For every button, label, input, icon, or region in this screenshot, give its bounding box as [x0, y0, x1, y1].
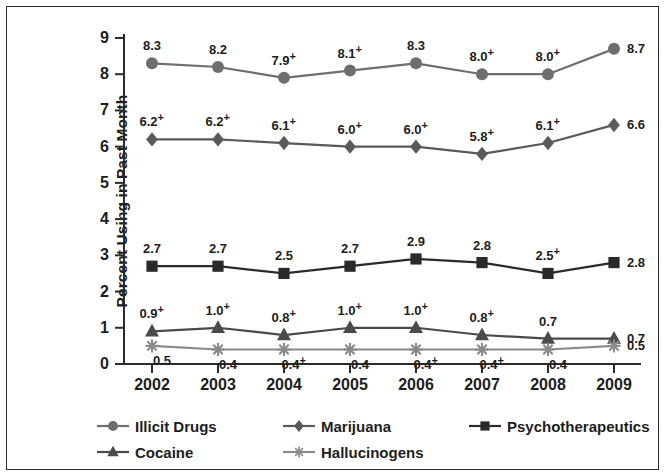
data-point-label: 6.2+	[206, 115, 231, 128]
asterisk-marker-icon	[475, 343, 488, 356]
data-point-label: 1.0+	[338, 304, 363, 317]
data-point-label: 0.8+	[470, 311, 495, 324]
diamond-marker-icon	[282, 416, 316, 436]
data-point-label: 8.3	[407, 39, 425, 52]
circle-marker-icon	[344, 65, 356, 77]
data-point-label: 1.0+	[206, 304, 231, 317]
data-point-label: 0.4+	[480, 358, 505, 371]
square-marker-icon	[476, 257, 487, 268]
data-point-label: 8.0+	[536, 50, 561, 63]
data-point-label: 2.8	[473, 239, 491, 252]
data-point-label: 0.7	[539, 315, 557, 328]
diamond-marker-icon	[410, 139, 422, 153]
legend-label: Hallucinogens	[321, 445, 424, 460]
data-point-label: 0.5	[153, 354, 171, 367]
square-marker-icon	[468, 416, 502, 436]
data-point-label: 8.3	[143, 39, 161, 52]
legend-item-hallucinogens[interactable]: Hallucinogens	[282, 440, 424, 464]
asterisk-marker-icon	[145, 339, 158, 352]
data-point-label: 0.4	[219, 358, 237, 371]
y-tick-label: 4	[83, 211, 109, 227]
circle-marker-icon	[96, 416, 130, 436]
data-point-label: 0.4+	[414, 358, 439, 371]
data-point-label: 6.1+	[536, 119, 561, 132]
circle-marker-icon	[410, 57, 422, 69]
asterisk-marker-icon	[294, 447, 305, 458]
diamond-marker-icon	[278, 136, 290, 150]
triangle-marker-icon	[211, 320, 225, 333]
y-tick-label: 1	[83, 320, 109, 336]
data-point-label: 1.0+	[404, 304, 429, 317]
data-point-label: 8.2	[209, 43, 227, 56]
data-point-label: 2.9	[407, 235, 425, 248]
square-marker-icon	[480, 421, 489, 430]
legend-item-marijuana[interactable]: Marijuana	[282, 414, 391, 438]
plot-area: Percent Using in Past Month 012345678920…	[104, 24, 649, 379]
legend-label: Psychotherapeutics	[507, 419, 650, 434]
circle-marker-icon	[608, 43, 620, 55]
y-tick-label: 5	[83, 175, 109, 191]
x-tick-label: 2002	[121, 377, 183, 393]
legend-item-illicit-drugs[interactable]: Illicit Drugs	[96, 414, 217, 438]
circle-marker-icon	[278, 72, 290, 84]
data-point-label: 2.7	[143, 242, 161, 255]
asterisk-marker-icon	[409, 343, 422, 356]
figure-container: Percent Using in Past Month 012345678920…	[0, 0, 665, 476]
y-tick-label: 6	[83, 139, 109, 155]
square-marker-icon	[278, 268, 289, 279]
legend-label: Cocaine	[135, 445, 193, 460]
data-point-label: 6.0+	[404, 123, 429, 136]
x-tick-label: 2003	[187, 377, 249, 393]
circle-marker-icon	[542, 68, 554, 80]
diamond-marker-icon	[344, 139, 356, 153]
asterisk-marker-icon	[211, 343, 224, 356]
square-marker-icon	[410, 253, 421, 264]
x-tick-label: 2004	[253, 377, 315, 393]
legend-label: Illicit Drugs	[135, 419, 217, 434]
circle-marker-icon	[476, 68, 488, 80]
triangle-marker-icon	[409, 320, 423, 333]
x-tick-label: 2009	[583, 377, 645, 393]
square-marker-icon	[344, 261, 355, 272]
data-point-label: 0.4+	[282, 358, 307, 371]
asterisk-marker-icon	[282, 442, 316, 462]
diamond-marker-icon	[212, 132, 224, 146]
data-point-label: 6.2+	[140, 115, 165, 128]
data-point-label: 0.8+	[272, 311, 297, 324]
data-point-label: 2.7	[209, 242, 227, 255]
diamond-marker-icon	[476, 147, 488, 161]
triangle-marker-icon	[96, 442, 130, 462]
x-tick-label: 2008	[517, 377, 579, 393]
data-point-label: 0.9+	[140, 307, 165, 320]
data-point-label: 7.9+	[272, 54, 297, 67]
x-tick-label: 2006	[385, 377, 447, 393]
data-point-label: 5.8+	[470, 130, 495, 143]
data-point-label: 8.7	[627, 42, 645, 55]
data-point-label: 0.5	[627, 339, 645, 352]
circle-marker-icon	[146, 57, 158, 69]
data-point-label: 6.6	[627, 118, 645, 131]
asterisk-marker-icon	[607, 339, 620, 352]
data-point-label: 2.5	[275, 249, 293, 262]
asterisk-marker-icon	[343, 343, 356, 356]
square-marker-icon	[542, 268, 553, 279]
legend-item-cocaine[interactable]: Cocaine	[96, 440, 193, 464]
y-tick-label: 7	[83, 102, 109, 118]
data-point-label: 2.7	[341, 242, 359, 255]
y-tick-label: 8	[83, 66, 109, 82]
diamond-marker-icon	[294, 420, 304, 432]
y-tick-label: 2	[83, 284, 109, 300]
data-point-label: 0.4	[549, 358, 567, 371]
data-point-label: 8.0+	[470, 50, 495, 63]
y-tick-label: 9	[83, 30, 109, 46]
data-point-label: 6.0+	[338, 123, 363, 136]
data-point-label: 0.4	[351, 358, 369, 371]
chart-legend: Illicit DrugsMarijuanaPsychotherapeutics…	[96, 414, 644, 466]
square-marker-icon	[608, 257, 619, 268]
legend-label: Marijuana	[321, 419, 391, 434]
x-tick-label: 2007	[451, 377, 513, 393]
data-point-label: 8.1+	[338, 47, 363, 60]
legend-item-psychotherapeutics[interactable]: Psychotherapeutics	[468, 414, 650, 438]
square-marker-icon	[146, 261, 157, 272]
asterisk-marker-icon	[541, 343, 554, 356]
